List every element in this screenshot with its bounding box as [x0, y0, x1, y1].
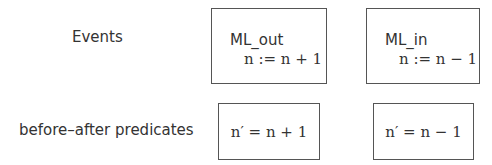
event-action: n := n + 1 [244, 50, 322, 68]
predicate-text: n′ = n − 1 [374, 123, 473, 141]
row-label-events: Events [72, 28, 123, 46]
row-label-predicates: before–after predicates [19, 121, 194, 139]
event-action: n := n − 1 [399, 50, 477, 68]
predicate-box-ml-out: n′ = n + 1 [218, 103, 320, 160]
event-box-ml-in: ML_in n := n − 1 [366, 8, 480, 84]
predicate-box-ml-in: n′ = n − 1 [373, 103, 474, 160]
event-name: ML_out [230, 31, 283, 49]
event-name: ML_in [385, 31, 427, 49]
event-box-ml-out: ML_out n := n + 1 [211, 8, 327, 84]
predicate-text: n′ = n + 1 [219, 123, 319, 141]
